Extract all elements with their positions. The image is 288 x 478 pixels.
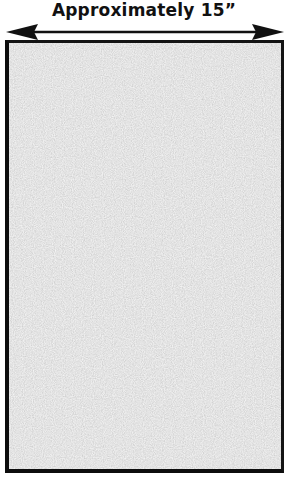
fabric-panel (5, 40, 284, 473)
dimension-label: Approximately 15” (0, 0, 288, 22)
speckle-texture (9, 43, 281, 469)
double-arrow-icon (0, 22, 288, 42)
